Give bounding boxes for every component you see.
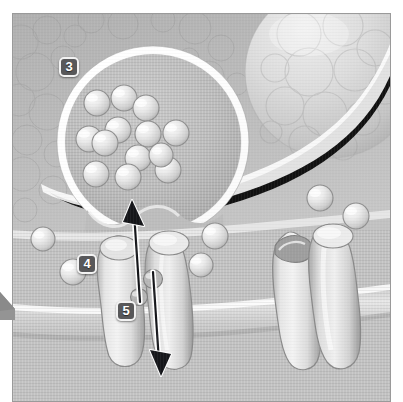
- label-badge-4[interactable]: 4: [77, 254, 97, 274]
- illustration-root: 3 4 5: [0, 0, 403, 402]
- figure-frame: 3 4 5: [12, 13, 391, 402]
- label-badge-3[interactable]: 3: [59, 57, 79, 77]
- corner-tab-shape: [0, 287, 15, 320]
- page-corner-tab: [0, 287, 15, 320]
- label-badge-5[interactable]: 5: [116, 301, 136, 321]
